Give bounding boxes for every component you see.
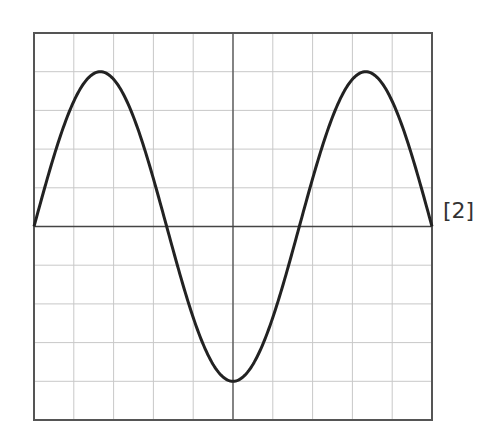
marks-label: [2]: [443, 198, 474, 223]
oscilloscope-grid: [0, 0, 480, 437]
